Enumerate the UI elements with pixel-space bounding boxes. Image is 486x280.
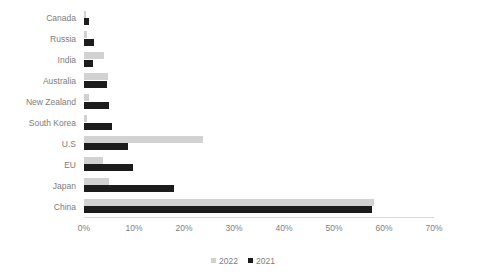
x-axis-line (84, 217, 434, 218)
legend-label-2021: 2021 (256, 256, 275, 267)
chart-legend: 20222021 (0, 256, 486, 267)
x-tick-60pct: 60% (375, 222, 392, 234)
bar-group (84, 31, 434, 48)
x-tick-10pct: 10% (125, 222, 142, 234)
y-axis-label-india: India (58, 55, 76, 65)
bar-south-korea-2022 (84, 115, 87, 122)
bar-china-2022 (84, 199, 374, 206)
bar-china-2021 (84, 206, 372, 213)
bar-group (84, 52, 434, 69)
bar-canada-2022 (84, 11, 86, 18)
bar-new-zealand-2021 (84, 102, 109, 109)
bar-canada-2021 (84, 18, 89, 25)
x-tick-70pct: 70% (425, 222, 442, 234)
bar-japan-2021 (84, 185, 174, 192)
x-tick-30pct: 30% (225, 222, 242, 234)
bar-australia-2021 (84, 81, 107, 88)
y-axis-label-canada: Canada (46, 13, 76, 23)
y-axis-label-russia: Russia (50, 34, 76, 44)
bar-group (84, 115, 434, 132)
y-axis-category-labels: CanadaRussiaIndiaAustraliaNew ZealandSou… (0, 8, 80, 217)
bar-group (84, 136, 434, 153)
bar-new-zealand-2022 (84, 94, 89, 101)
legend-swatch-2022 (211, 258, 216, 263)
legend-label-2022: 2022 (219, 256, 238, 267)
bar-group (84, 199, 434, 216)
bar-group (84, 178, 434, 195)
legend-item-2021[interactable]: 2021 (248, 256, 275, 267)
bar-japan-2022 (84, 178, 109, 185)
x-tick-40pct: 40% (275, 222, 292, 234)
y-axis-label-south-korea: South Korea (29, 118, 76, 128)
plot-area (84, 8, 434, 217)
bar-group (84, 73, 434, 90)
bar-russia-2021 (84, 39, 94, 46)
bar-u-s-2022 (84, 136, 203, 143)
bar-chart: CanadaRussiaIndiaAustraliaNew ZealandSou… (0, 0, 486, 280)
legend-item-2022[interactable]: 2022 (211, 256, 238, 267)
y-axis-label-australia: Australia (43, 76, 76, 86)
y-axis-label-eu: EU (64, 160, 76, 170)
bar-eu-2022 (84, 157, 103, 164)
bar-group (84, 94, 434, 111)
bar-australia-2022 (84, 73, 108, 80)
legend-swatch-2021 (248, 258, 253, 263)
x-tick-0pct: 0% (78, 222, 90, 234)
bar-u-s-2021 (84, 143, 128, 150)
y-axis-label-u-s: U.S (62, 139, 76, 149)
y-axis-label-japan: Japan (53, 181, 76, 191)
bar-group (84, 157, 434, 174)
y-axis-label-china: China (54, 202, 76, 212)
y-axis-label-new-zealand: New Zealand (26, 97, 76, 107)
bar-russia-2022 (84, 31, 87, 38)
x-tick-50pct: 50% (325, 222, 342, 234)
bar-india-2021 (84, 60, 93, 67)
bar-south-korea-2021 (84, 123, 112, 130)
bar-india-2022 (84, 52, 104, 59)
bar-eu-2021 (84, 164, 133, 171)
bar-group (84, 11, 434, 28)
x-tick-20pct: 20% (175, 222, 192, 234)
x-axis-tick-labels: 0%10%20%30%40%50%60%70% (0, 222, 486, 236)
